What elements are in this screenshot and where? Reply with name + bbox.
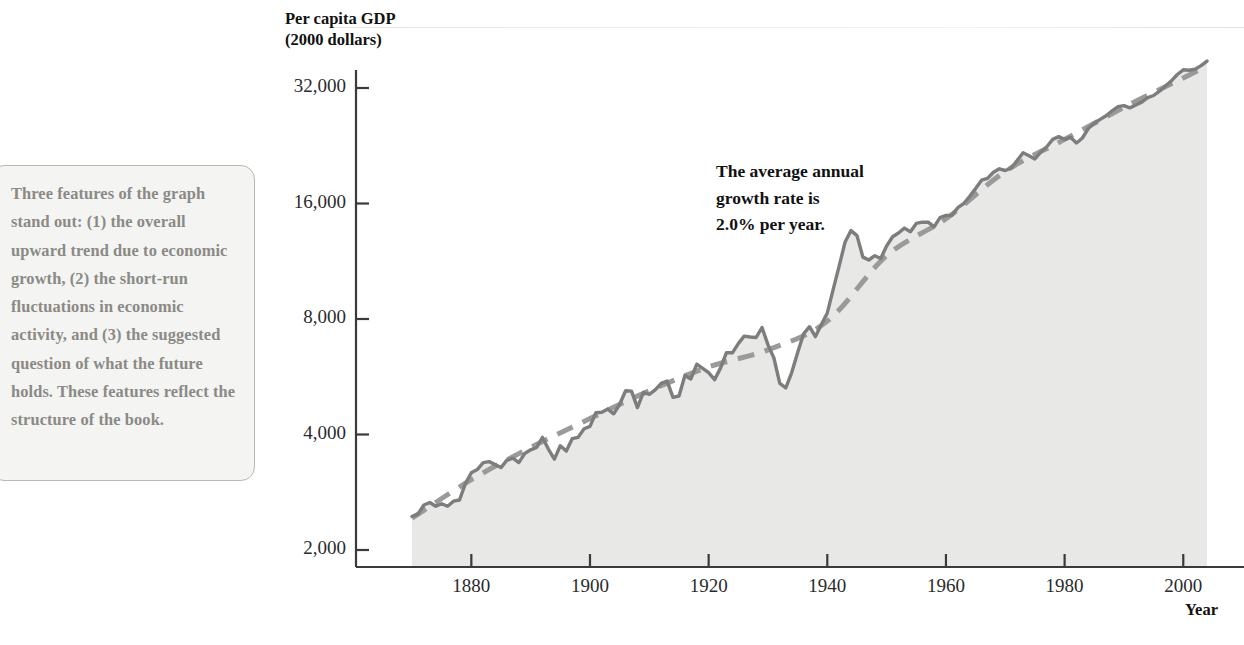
chart-container: Per capita GDP (2000 dollars) Year The a… [0, 0, 1244, 645]
y-tick-label: 16,000 [256, 191, 346, 213]
x-tick-label: 1920 [664, 575, 754, 597]
x-tick-label: 1880 [426, 575, 516, 597]
plot-svg [0, 0, 1244, 645]
area-fill-group [412, 61, 1207, 567]
growth-rate-annotation: The average annual growth rate is 2.0% p… [716, 158, 864, 238]
x-tick-label: 1900 [545, 575, 635, 597]
y-tick-label: 32,000 [256, 75, 346, 97]
x-tick-label: 2000 [1138, 575, 1228, 597]
series-area-fill [412, 61, 1207, 567]
y-tick-label: 8,000 [256, 306, 346, 328]
x-tick-label: 1980 [1020, 575, 1110, 597]
y-tick-label: 4,000 [256, 422, 346, 444]
y-tick-label: 2,000 [256, 537, 346, 559]
x-tick-label: 1940 [782, 575, 872, 597]
x-axis-title: Year [1185, 600, 1218, 620]
x-tick-label: 1960 [901, 575, 991, 597]
y-axis-title: Per capita GDP (2000 dollars) [285, 8, 396, 50]
